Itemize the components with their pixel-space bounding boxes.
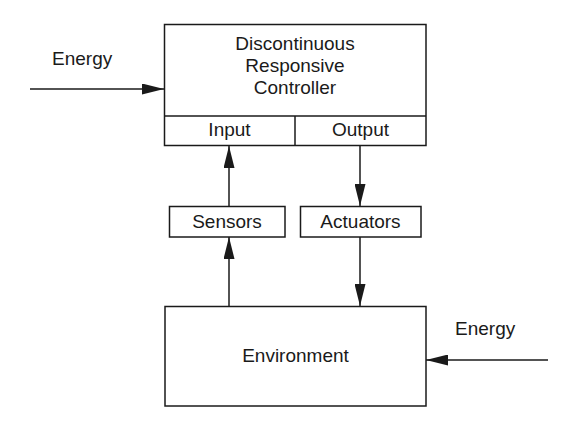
controller-line-2: Responsive <box>164 55 426 77</box>
controller-title: Discontinuous Responsive Controller <box>164 33 426 99</box>
controller-line-1: Discontinuous <box>164 33 426 55</box>
diagram-canvas: Discontinuous Responsive Controller Inpu… <box>0 0 585 424</box>
energy-left-label: Energy <box>52 48 112 70</box>
output-label: Output <box>295 119 426 141</box>
input-label: Input <box>164 119 295 141</box>
sensors-label: Sensors <box>169 211 285 233</box>
controller-line-3: Controller <box>164 77 426 99</box>
actuators-label: Actuators <box>300 211 421 233</box>
energy-right-label: Energy <box>455 318 515 340</box>
environment-label: Environment <box>165 345 426 367</box>
